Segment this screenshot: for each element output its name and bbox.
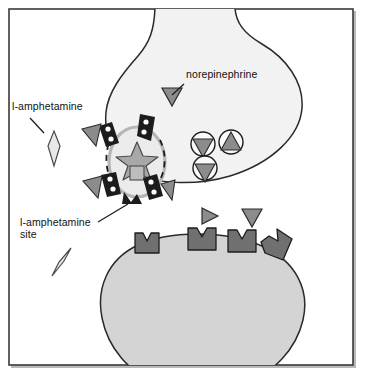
label-l-amphetamine-site: l-amphetamine (20, 216, 91, 228)
figure-container: norepinephrine l-amphetamine l-amphetami… (0, 0, 382, 388)
label-l-amphetamine-site-second-line: site (20, 228, 37, 240)
label-l-amphetamine: l-amphetamine (12, 100, 83, 112)
label-norepinephrine: norepinephrine (186, 68, 258, 80)
storage-vesicle (219, 130, 243, 154)
transporter-core-square (130, 166, 144, 180)
synapse-diagram: norepinephrine l-amphetamine l-amphetami… (0, 0, 382, 388)
storage-vesicle (191, 132, 215, 157)
